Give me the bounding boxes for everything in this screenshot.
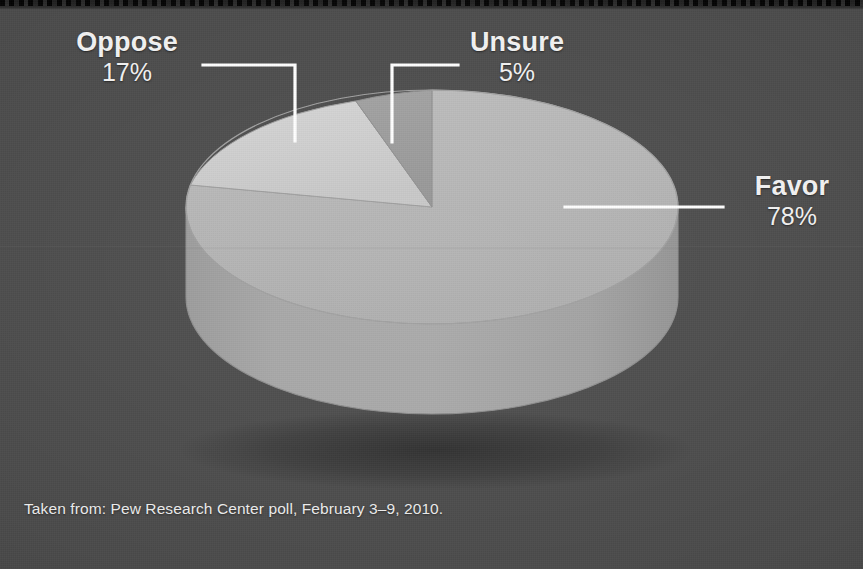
slice-label-unsure-percent: 5% [447,59,587,86]
slice-label-favor-percent: 78% [728,203,856,230]
slice-label-unsure: Unsure 5% [447,28,587,85]
slice-label-unsure-name: Unsure [447,28,587,57]
slice-label-oppose-name: Oppose [57,28,197,57]
slice-label-favor: Favor 78% [728,172,856,229]
slice-label-oppose-percent: 17% [57,59,197,86]
slice-label-oppose: Oppose 17% [57,28,197,85]
pie-drop-shadow [178,410,694,490]
chart-image: Oppose 17% Unsure 5% Favor 78% Taken fro… [0,0,863,569]
source-footnote: Taken from: Pew Research Center poll, Fe… [24,500,443,518]
scan-edge-band [0,0,863,9]
slice-label-favor-name: Favor [728,172,856,201]
